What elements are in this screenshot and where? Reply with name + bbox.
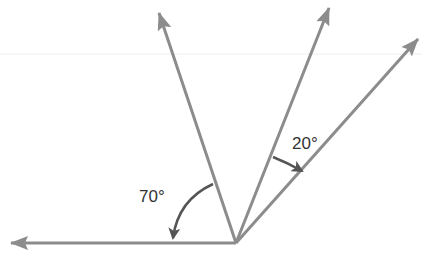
upper-right-ray (236, 39, 418, 243)
angle-diagram: 70° 20° (0, 0, 422, 257)
upper-middle-ray (236, 8, 329, 243)
angle-70-arc (173, 184, 213, 238)
angle-70-label: 70° (139, 187, 165, 206)
upper-left-ray (159, 13, 236, 243)
angle-20-arc (273, 157, 302, 171)
angle-20-label: 20° (292, 134, 318, 153)
